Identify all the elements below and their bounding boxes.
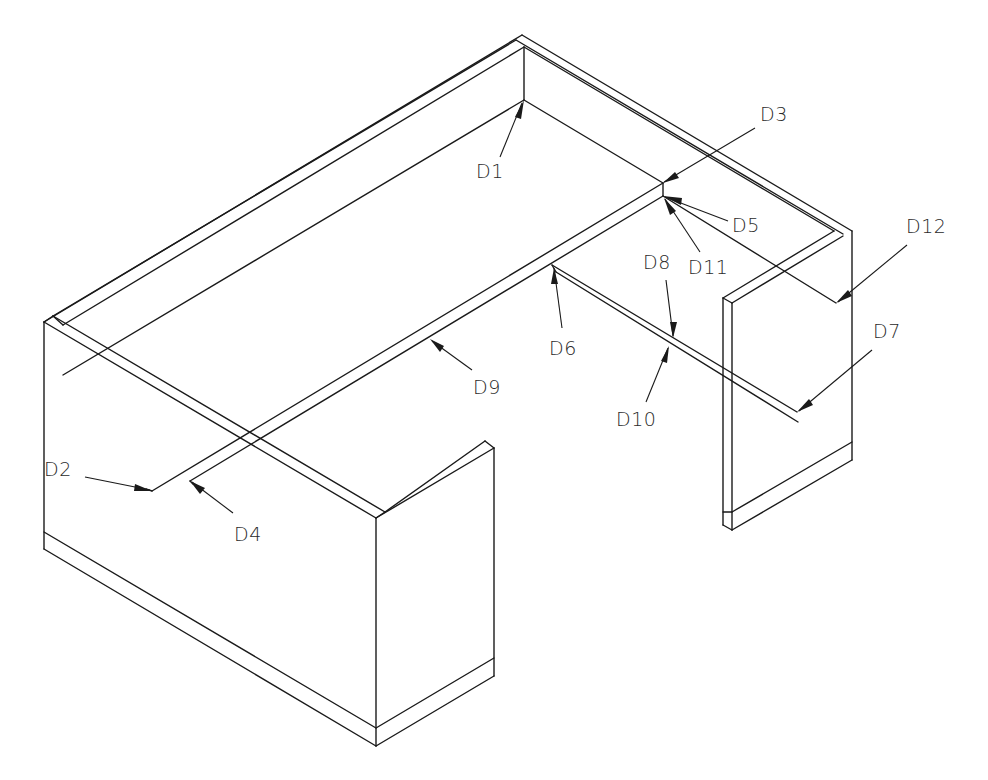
- label-d4: D4: [234, 525, 262, 544]
- drawing-canvas: D1 D2 D3 D4 D5 D6 D7 D8 D9 D10 D11 D12: [0, 0, 988, 780]
- label-d3: D3: [760, 105, 788, 124]
- desk-surface-front-edge: [146, 183, 663, 491]
- label-d5: D5: [732, 216, 760, 235]
- label-d7: D7: [873, 322, 901, 341]
- return-surface-rail: [552, 265, 798, 422]
- label-d9: D9: [473, 378, 501, 397]
- label-d1: D1: [476, 162, 504, 181]
- label-d2: D2: [44, 460, 72, 479]
- right-back-wall-panel: [516, 35, 852, 303]
- right-end-panel: [723, 231, 852, 530]
- back-wall-panel: [44, 35, 524, 375]
- front-return-panel: [376, 441, 494, 746]
- label-d6: D6: [549, 339, 577, 358]
- front-left-panel: [44, 316, 385, 746]
- label-d8: D8: [643, 253, 671, 272]
- label-d10: D10: [616, 410, 656, 429]
- label-d11: D11: [688, 258, 728, 277]
- label-d12: D12: [906, 217, 946, 236]
